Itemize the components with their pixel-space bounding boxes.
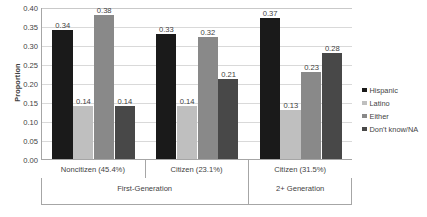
bar-value-label: 0.32 <box>200 28 215 37</box>
legend-swatch-icon <box>362 114 367 119</box>
bar <box>218 79 238 159</box>
y-axis-tick-label: 0.35 <box>8 23 38 32</box>
legend-item[interactable]: Either <box>362 110 427 122</box>
bar-value-label: 0.13 <box>283 101 298 110</box>
bar-chart: Proportion 0.400.350.300.250.200.150.100… <box>0 0 427 217</box>
x-axis: Noncitizen (45.4%)Citizen (23.1%)Citizen… <box>41 160 352 210</box>
y-axis-tick-label: 0.05 <box>8 137 38 146</box>
bar-value-label: 0.34 <box>55 21 70 30</box>
y-axis-tick-labels: 0.400.350.300.250.200.150.100.050.00 <box>8 8 38 160</box>
y-axis-tick-label: 0.00 <box>8 156 38 165</box>
bar-value-label: 0.21 <box>221 70 236 79</box>
legend-label: Don't know/NA <box>370 125 419 134</box>
legend-label: Either <box>370 112 389 121</box>
legend-item[interactable]: Hispanic <box>362 84 427 96</box>
bar-value-label: 0.14 <box>180 97 195 106</box>
legend-swatch-icon <box>362 101 367 106</box>
y-axis-tick-label: 0.30 <box>8 42 38 51</box>
bar-value-label: 0.37 <box>263 9 278 18</box>
legend-swatch-icon <box>362 127 367 132</box>
x-axis-group-label: First-Generation <box>117 184 172 193</box>
y-axis-tick-label: 0.40 <box>8 4 38 13</box>
legend-item[interactable]: Don't know/NA <box>362 123 427 135</box>
bar-value-label: 0.33 <box>159 25 174 34</box>
legend-label: Latino <box>370 99 390 108</box>
bar-value-label: 0.14 <box>76 97 91 106</box>
bar <box>322 53 342 159</box>
bar <box>177 106 197 159</box>
bar <box>198 37 218 159</box>
legend-label: Hispanic <box>370 86 398 95</box>
chart-legend: HispanicLatinoEitherDon't know/NA <box>362 84 427 136</box>
x-axis-category-label: Citizen (23.1%) <box>171 165 223 174</box>
bar-value-label: 0.14 <box>118 97 133 106</box>
bar-value-label: 0.38 <box>97 6 112 15</box>
y-axis-tick-label: 0.10 <box>8 118 38 127</box>
bar-value-label: 0.23 <box>304 63 319 72</box>
bar-value-label: 0.28 <box>325 44 340 53</box>
bar <box>260 18 280 159</box>
x-axis-category-label: Noncitizen (45.4%) <box>61 165 125 174</box>
category-separator <box>145 160 146 178</box>
bars-layer: 0.340.140.380.140.330.140.320.210.370.13… <box>42 8 352 159</box>
x-axis-group-label: 2+ Generation <box>276 184 324 193</box>
bar <box>73 106 93 159</box>
group-separator <box>41 178 42 204</box>
group-baseline <box>41 204 248 205</box>
bar <box>115 106 135 159</box>
bar <box>52 30 72 159</box>
legend-item[interactable]: Latino <box>362 97 427 109</box>
legend-swatch-icon <box>362 88 367 93</box>
x-axis-category-label: Citizen (31.5%) <box>274 165 326 174</box>
group-baseline <box>248 204 352 205</box>
y-axis-tick-label: 0.15 <box>8 99 38 108</box>
bar <box>301 72 321 159</box>
y-axis-tick-label: 0.25 <box>8 61 38 70</box>
plot-area: 0.340.140.380.140.330.140.320.210.370.13… <box>41 8 352 160</box>
bar <box>156 34 176 159</box>
group-separator <box>248 178 249 204</box>
y-axis-tick-label: 0.20 <box>8 80 38 89</box>
group-separator <box>351 178 352 204</box>
bar <box>280 110 300 159</box>
bar <box>94 15 114 159</box>
